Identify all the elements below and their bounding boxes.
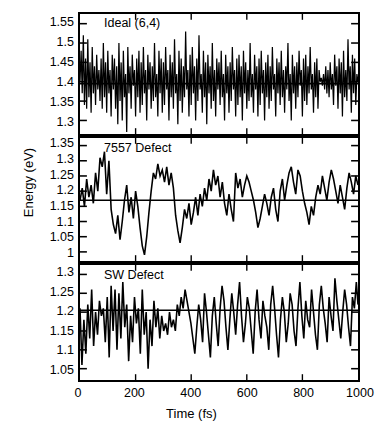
x-tick-label: 200 [124,386,145,400]
y-tick-label: 1.2 [57,305,74,317]
y-tick-column-panel-2: 1.31.251.21.151.11.05 [0,263,74,382]
x-tick-label: 400 [180,386,201,400]
x-tick-label: 1000 [346,386,374,400]
y-tick-label: 1.4 [57,76,74,88]
data-trace [80,31,358,132]
y-tick-label: 1.3 [57,153,74,165]
y-tick-label: 1 [67,247,74,259]
y-tick-label: 1.15 [50,325,74,337]
y-tick-column-panel-1: 1.351.31.251.21.151.11.051 [0,136,74,263]
panel-label-ideal: Ideal (6,4) [104,16,160,30]
y-tick-label: 1.1 [57,344,74,356]
y-tick-label: 1.55 [50,16,74,28]
y-tick-label: 1.25 [50,286,74,298]
data-trace [80,152,358,255]
plot-panel-ideal [78,12,360,136]
plot-panel-7557-defect [78,136,360,263]
x-axis-label: Time (fs) [0,406,383,421]
y-tick-label: 1.25 [50,169,74,181]
energy-time-series-figure: Energy (eV) 1.551.51.451.41.351.3 1.351.… [0,0,383,431]
plot-area-7557-defect [80,138,358,261]
y-tick-column-panel-0: 1.551.51.451.41.351.3 [0,12,74,136]
panel-label-sw-defect: SW Defect [104,268,164,282]
y-tick-label: 1.35 [50,96,74,108]
y-tick-label: 1.3 [57,116,74,128]
y-tick-label: 1.5 [57,36,74,48]
x-tick-label: 600 [237,386,258,400]
y-tick-label: 1.15 [50,200,74,212]
panel-label-7557-defect: 7557 Defect [104,141,171,155]
y-tick-label: 1.05 [50,231,74,243]
data-trace [80,278,358,368]
plot-area-ideal [80,14,358,134]
y-tick-label: 1.35 [50,137,74,149]
y-tick-label: 1.45 [50,56,74,68]
y-tick-label: 1.05 [50,364,74,376]
x-tick-label: 800 [293,386,314,400]
y-tick-label: 1.1 [57,216,74,228]
plot-area-sw-defect [80,265,358,380]
y-tick-label: 1.3 [57,266,74,278]
x-tick-label: 0 [75,386,82,400]
x-axis-tick-labels: 02004006008001000 [0,386,383,404]
y-tick-label: 1.2 [57,184,74,196]
